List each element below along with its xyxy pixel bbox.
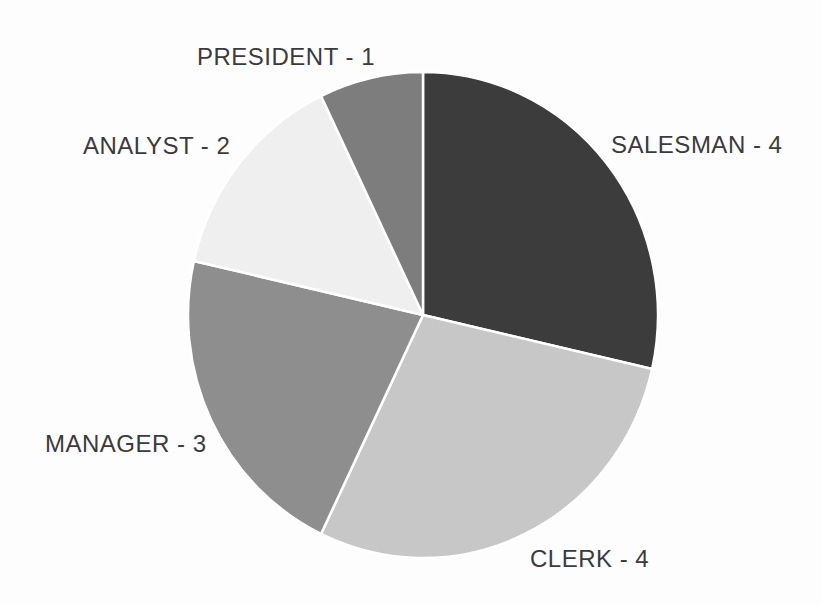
slice-label-clerk: CLERK - 4: [530, 545, 649, 573]
slice-label-analyst: ANALYST - 2: [83, 132, 230, 160]
slice-label-salesman: SALESMAN - 4: [611, 131, 782, 159]
pie-chart-page: PRESIDENT - 1 SALESMAN - 4 ANALYST - 2 M…: [0, 0, 821, 605]
slice-label-president: PRESIDENT - 1: [197, 43, 375, 71]
pie-chart: [0, 0, 821, 605]
slice-label-manager: MANAGER - 3: [45, 430, 207, 458]
